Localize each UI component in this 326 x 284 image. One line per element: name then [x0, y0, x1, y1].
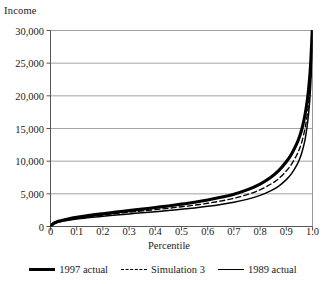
legend-swatch-dashed-icon [121, 269, 147, 270]
y-axis-title: Income [4, 5, 37, 16]
y-tick-label: 30,000 [0, 25, 44, 36]
legend-item-1989-actual: 1989 actual [218, 264, 297, 275]
y-tick-label: 25,000 [0, 58, 44, 69]
chart-legend: 1997 actual Simulation 3 1989 actual [0, 264, 326, 275]
y-tick-label: 20,000 [0, 90, 44, 101]
legend-swatch-solid-thick-icon [29, 268, 55, 271]
series-line-1997-actual [51, 21, 313, 227]
legend-item-simulation-3: Simulation 3 [121, 264, 205, 275]
legend-item-1997-actual: 1997 actual [29, 264, 108, 275]
income-percentile-chart: Income 05,00010,00015,00020,00025,00030,… [0, 0, 326, 284]
x-tick-label: 1.0 [298, 226, 326, 237]
x-axis-title: Percentile [0, 240, 326, 251]
legend-label-simulation-3: Simulation 3 [151, 264, 205, 275]
legend-swatch-solid-thin-icon [218, 269, 244, 270]
y-tick-label: 5,000 [0, 188, 44, 199]
y-tick-label: 15,000 [0, 123, 44, 134]
legend-label-1997-actual: 1997 actual [59, 264, 108, 275]
x-axis-title-text: Percentile [148, 240, 190, 251]
y-tick-label: 10,000 [0, 156, 44, 167]
series-line-simulation-3 [51, 27, 313, 226]
legend-label-1989-actual: 1989 actual [248, 264, 297, 275]
series-line-1989-actual [51, 29, 313, 226]
